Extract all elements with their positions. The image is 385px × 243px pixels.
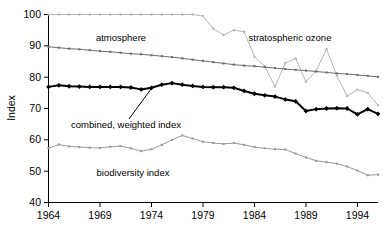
data-point-marker xyxy=(78,48,80,50)
data-point-marker xyxy=(202,15,204,17)
y-axis-title: Index xyxy=(5,94,17,120)
data-point-marker xyxy=(325,48,327,50)
data-point-marker xyxy=(118,84,123,89)
data-point-marker xyxy=(336,75,338,77)
data-point-marker xyxy=(140,150,142,152)
data-point-marker xyxy=(377,104,379,106)
data-point-marker xyxy=(284,149,286,151)
data-point-marker xyxy=(264,66,266,68)
data-point-marker xyxy=(181,57,183,59)
data-point-marker xyxy=(99,147,101,149)
data-point-marker xyxy=(315,160,317,162)
data-point-marker xyxy=(58,47,60,49)
data-point-marker xyxy=(336,163,338,165)
data-point-marker xyxy=(140,13,142,15)
data-point-marker xyxy=(201,84,206,89)
data-point-marker xyxy=(192,59,194,61)
data-point-marker xyxy=(253,56,255,58)
data-point-marker xyxy=(346,95,348,97)
data-point-marker xyxy=(367,75,369,77)
data-point-marker xyxy=(295,153,297,155)
data-point-marker xyxy=(161,144,163,146)
data-point-marker xyxy=(161,55,163,57)
data-point-marker xyxy=(264,147,266,149)
data-point-marker xyxy=(274,86,276,88)
x-axis-ticks xyxy=(49,203,358,208)
series-label-biodiversity-index: biodiversity index xyxy=(97,167,170,178)
series-atmosphere xyxy=(47,46,379,78)
x-tick-label: 1994 xyxy=(346,209,370,221)
data-point-marker xyxy=(128,85,133,90)
data-point-marker xyxy=(295,57,297,59)
data-point-marker xyxy=(78,13,80,15)
data-point-marker xyxy=(253,65,255,67)
data-point-marker xyxy=(68,48,70,50)
chart-container: 100 90 80 70 60 50 40 Index 1964 1969 19… xyxy=(0,0,385,243)
data-point-marker xyxy=(87,84,92,89)
data-point-marker xyxy=(78,146,80,148)
data-point-marker xyxy=(68,145,70,147)
series-label-combined-weighted-index: combined, weighted index xyxy=(71,119,181,130)
data-point-marker xyxy=(58,143,60,145)
data-point-marker xyxy=(120,52,122,54)
data-point-marker xyxy=(47,13,49,15)
data-point-marker xyxy=(108,84,113,89)
x-tick-label: 1989 xyxy=(294,209,318,221)
data-point-marker xyxy=(181,13,183,15)
data-point-marker xyxy=(325,161,327,163)
data-point-marker xyxy=(283,97,288,102)
x-tick-label: 1969 xyxy=(88,209,112,221)
data-point-marker xyxy=(223,143,225,145)
series-combined-weighted-index xyxy=(46,81,380,117)
data-point-marker xyxy=(274,148,276,150)
data-point-marker xyxy=(314,107,319,112)
data-point-marker xyxy=(356,169,358,171)
data-point-marker xyxy=(243,65,245,67)
data-point-marker xyxy=(56,83,61,88)
data-point-marker xyxy=(212,142,214,144)
data-point-marker xyxy=(284,62,286,64)
data-point-marker xyxy=(130,53,132,55)
data-point-marker xyxy=(47,46,49,48)
data-point-marker xyxy=(305,81,307,83)
data-point-marker xyxy=(367,92,369,94)
data-point-marker xyxy=(171,13,173,15)
data-point-marker xyxy=(171,139,173,141)
data-point-marker xyxy=(223,34,225,36)
data-point-marker xyxy=(149,85,154,90)
data-point-marker xyxy=(192,13,194,15)
data-point-marker xyxy=(336,72,338,74)
data-point-marker xyxy=(150,54,152,56)
y-tick-label: 60 xyxy=(29,133,41,145)
series-stratospheric-ozone xyxy=(47,13,379,106)
data-point-marker xyxy=(180,82,185,87)
data-point-marker xyxy=(89,49,91,51)
x-axis-tick-labels: 1964 1969 1974 1979 1984 1989 1994 xyxy=(37,209,370,221)
data-point-marker xyxy=(139,87,144,92)
data-point-marker xyxy=(262,93,267,98)
data-point-marker xyxy=(47,147,49,149)
data-point-marker xyxy=(161,13,163,15)
data-point-marker xyxy=(377,76,379,78)
data-point-marker xyxy=(223,62,225,64)
data-point-marker xyxy=(181,134,183,136)
data-point-marker xyxy=(212,28,214,30)
data-point-marker xyxy=(140,53,142,55)
data-point-marker xyxy=(190,84,195,89)
data-point-marker xyxy=(233,142,235,144)
data-point-marker xyxy=(130,13,132,15)
data-point-marker xyxy=(150,148,152,150)
data-point-marker xyxy=(202,60,204,62)
data-point-marker xyxy=(315,70,317,72)
data-point-marker xyxy=(233,64,235,66)
data-point-marker xyxy=(273,94,278,99)
data-point-marker xyxy=(233,29,235,31)
y-axis-tick-labels: 100 90 80 70 60 50 40 xyxy=(23,8,41,208)
data-point-marker xyxy=(284,68,286,70)
data-point-marker xyxy=(109,51,111,53)
data-point-marker xyxy=(109,13,111,15)
data-point-marker xyxy=(305,156,307,158)
data-point-marker xyxy=(192,138,194,140)
data-point-marker xyxy=(346,73,348,75)
data-point-marker xyxy=(120,13,122,15)
